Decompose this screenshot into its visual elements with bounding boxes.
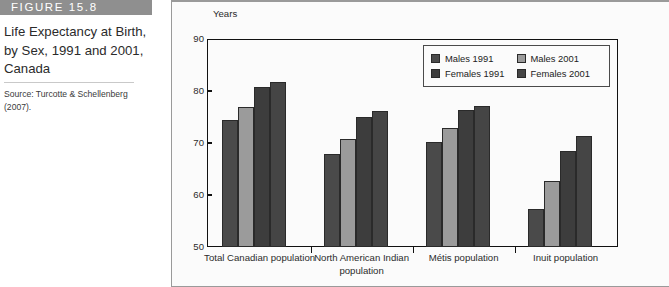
- legend-swatch-icon: [431, 69, 440, 78]
- bar: [372, 111, 388, 247]
- bar: [222, 120, 238, 247]
- figure-number-label: FIGURE 15.8: [11, 1, 98, 14]
- bar: [576, 136, 592, 246]
- bar-group: [324, 41, 388, 247]
- legend-row: Males 1991Males 2001: [431, 51, 602, 66]
- y-axis-title: Years: [213, 8, 237, 19]
- legend-item[interactable]: Males 2001: [517, 53, 603, 64]
- bar: [544, 181, 560, 246]
- legend-label: Males 1991: [445, 53, 493, 64]
- figure-source-note: Source: Turcotte & Schellenberg (2007).: [4, 88, 156, 114]
- bar: [474, 106, 490, 247]
- legend-label: Males 2001: [531, 53, 579, 64]
- y-tick-label: 60: [178, 189, 204, 200]
- legend-item[interactable]: Females 2001: [517, 68, 603, 79]
- legend-item[interactable]: Females 1991: [431, 68, 517, 79]
- bar: [426, 142, 442, 247]
- legend-row: Females 1991Females 2001: [431, 66, 602, 81]
- chart-panel: Years 5060708090 Total Canadian populati…: [171, 0, 669, 287]
- figure-title: Life Expectancy at Birth, by Sex, 1991 a…: [4, 23, 154, 79]
- caption-divider: [4, 82, 134, 83]
- legend-label: Females 1991: [445, 68, 504, 79]
- bar: [458, 110, 474, 246]
- y-tick-label: 70: [178, 137, 204, 148]
- bar: [270, 82, 286, 247]
- bar-group: [222, 41, 286, 247]
- bar: [324, 154, 340, 247]
- figure-header-bar: FIGURE 15.8: [0, 0, 152, 15]
- bar: [560, 151, 576, 246]
- bar: [340, 139, 356, 247]
- bar: [356, 117, 372, 246]
- bar: [528, 209, 544, 247]
- figure-caption-column: FIGURE 15.8 Life Expectancy at Birth, by…: [0, 0, 168, 287]
- y-tick-label: 80: [178, 85, 204, 96]
- legend-swatch-icon: [517, 69, 526, 78]
- legend-swatch-icon: [431, 54, 440, 63]
- x-category-label: Inuit population: [501, 251, 631, 264]
- legend-item[interactable]: Males 1991: [431, 53, 517, 64]
- legend-swatch-icon: [517, 54, 526, 63]
- y-tick-label: 90: [178, 33, 204, 44]
- bar: [442, 128, 458, 246]
- bar: [238, 107, 254, 247]
- bar: [254, 87, 270, 246]
- chart-legend: Males 1991Males 2001Females 1991Females …: [423, 45, 610, 87]
- legend-label: Females 2001: [531, 68, 590, 79]
- panel-top-rule: [172, 0, 669, 2]
